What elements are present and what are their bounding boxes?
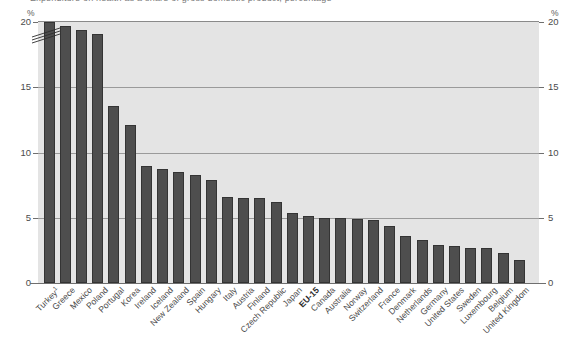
bar	[157, 169, 168, 283]
bar	[92, 34, 103, 283]
y-tick-label: 15	[9, 81, 31, 92]
bar	[173, 172, 184, 283]
bar	[60, 26, 71, 283]
bar	[44, 22, 55, 283]
y-tick-mark	[539, 153, 544, 154]
bar	[125, 125, 136, 283]
figure-title-clipped: Expenditure on health as a share of gros…	[0, 0, 586, 9]
y-tick-label: 5	[9, 212, 31, 223]
bar	[76, 30, 87, 283]
y-tick-label: 15	[548, 81, 572, 92]
y-tick-label: 5	[548, 212, 572, 223]
bar	[190, 175, 201, 283]
bar-series	[38, 22, 539, 283]
y-tick-mark	[539, 22, 544, 23]
chart-figure: Expenditure on health as a share of gros…	[0, 0, 586, 350]
figure-title-text: Expenditure on health as a share of gros…	[30, 0, 332, 3]
y-tick-label: 10	[548, 147, 572, 158]
y-tick-label: 0	[9, 277, 31, 288]
bar	[108, 106, 119, 283]
x-axis-categories: Turkey1GreeceMexicoPolandPortugalKoreaIr…	[38, 285, 586, 350]
y-tick-label: 20	[9, 16, 31, 27]
y-tick-label: 10	[9, 147, 31, 158]
y-tick-mark	[539, 218, 544, 219]
y-tick-mark	[539, 87, 544, 88]
y-tick-label: 20	[548, 16, 572, 27]
